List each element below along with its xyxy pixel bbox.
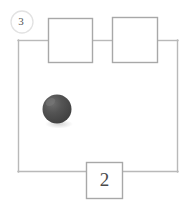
component-box-left-outline	[49, 19, 93, 63]
component-box-bottom-label: 2	[100, 169, 110, 190]
corner-label-badge: 3	[11, 11, 33, 33]
ball-object[interactable]	[43, 95, 72, 124]
component-box-right-outline	[113, 18, 158, 63]
component-box-right[interactable]	[113, 18, 158, 63]
component-box-bottom[interactable]: 2	[87, 163, 123, 199]
ball-body	[43, 95, 72, 124]
component-box-left[interactable]	[49, 19, 93, 63]
corner-label-text: 3	[18, 15, 24, 27]
diagram-canvas: 2 3	[0, 0, 194, 207]
circuit-diagram-svg: 2 3	[0, 0, 194, 207]
